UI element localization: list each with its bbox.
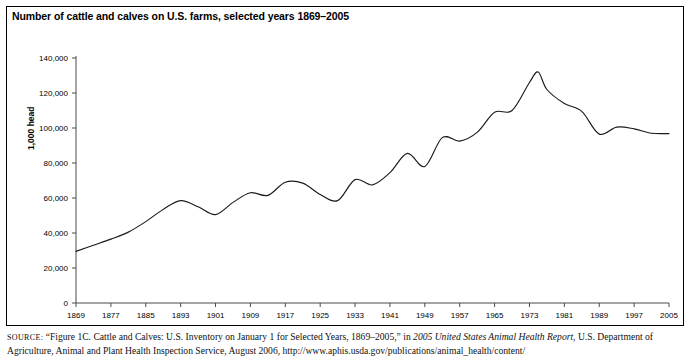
x-tick-label: 1957 <box>451 311 469 320</box>
figure-container: Number of cattle and calves on U.S. farm… <box>0 0 692 360</box>
x-tick-label: 1949 <box>416 311 434 320</box>
y-tick-label: 60,000 <box>44 194 69 203</box>
line-chart-svg: 020,00040,00060,00080,000100,000120,0001… <box>0 0 692 360</box>
x-tick-label: 1885 <box>137 311 155 320</box>
x-tick-label: 2005 <box>660 311 678 320</box>
y-tick-label: 140,000 <box>39 54 68 63</box>
x-tick-label: 1893 <box>172 311 190 320</box>
x-tick-label: 1933 <box>346 311 364 320</box>
y-tick-label: 0 <box>64 299 69 308</box>
x-tick-label: 1989 <box>590 311 608 320</box>
y-axis-label: 1,000 head <box>26 70 36 150</box>
x-tick-label: 1925 <box>311 311 329 320</box>
axes-group <box>76 56 669 303</box>
y-tick-label: 120,000 <box>39 89 68 98</box>
x-tick-label: 1917 <box>276 311 294 320</box>
source-label: SOURCE: <box>7 333 43 342</box>
x-tick-label: 1965 <box>486 311 504 320</box>
x-tick-label: 1901 <box>207 311 225 320</box>
x-tick-label: 1877 <box>102 311 120 320</box>
y-tick-label: 80,000 <box>44 159 69 168</box>
x-tick-label: 1973 <box>521 311 539 320</box>
x-tick-label: 1981 <box>555 311 573 320</box>
x-tick-label: 1869 <box>67 311 85 320</box>
source-publication-title: 2005 United States Animal Health Report <box>413 331 573 342</box>
data-series-line <box>76 72 669 252</box>
y-axis-ticks: 020,00040,00060,00080,000100,000120,0001… <box>39 54 76 308</box>
source-note: SOURCE: “Figure 1C. Cattle and Calves: U… <box>7 331 683 357</box>
plot-area: 020,00040,00060,00080,000100,000120,0001… <box>0 0 692 360</box>
y-tick-label: 100,000 <box>39 124 68 133</box>
y-tick-label: 40,000 <box>44 229 69 238</box>
x-tick-label: 1941 <box>381 311 399 320</box>
y-tick-label: 20,000 <box>44 264 69 273</box>
source-text-part1: “Figure 1C. Cattle and Calves: U.S. Inve… <box>43 331 413 342</box>
x-axis-ticks: 1869187718851893190119091917192519331941… <box>67 303 678 320</box>
x-tick-label: 1909 <box>242 311 260 320</box>
x-tick-label: 1997 <box>625 311 643 320</box>
